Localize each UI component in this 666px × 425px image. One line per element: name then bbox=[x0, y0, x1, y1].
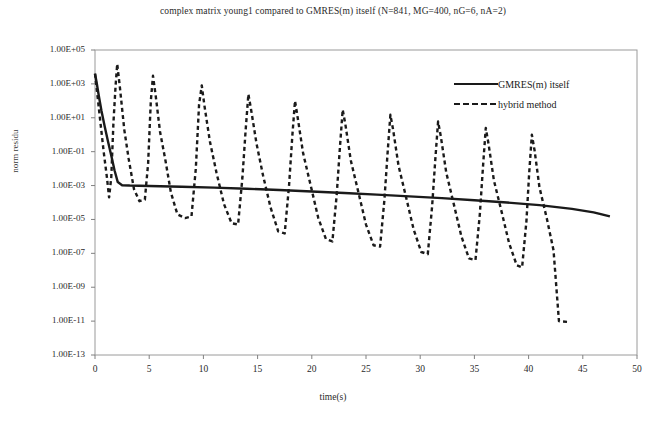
x-tick-label: 5 bbox=[134, 364, 164, 374]
x-tick-label: 0 bbox=[80, 364, 110, 374]
x-tick-label: 45 bbox=[568, 364, 598, 374]
legend-line-dashed-icon bbox=[452, 98, 498, 110]
legend-label-gmres: GMRES(m) itself bbox=[498, 79, 569, 90]
y-tick-label: 1.00E+01 bbox=[23, 112, 85, 122]
x-tick-label: 35 bbox=[459, 364, 489, 374]
x-tick-label: 30 bbox=[405, 364, 435, 374]
y-tick-label: 1.00E-03 bbox=[23, 180, 85, 190]
x-tick-label: 15 bbox=[243, 364, 273, 374]
x-tick-label: 40 bbox=[514, 364, 544, 374]
y-tick-label: 1.00E+03 bbox=[23, 78, 85, 88]
y-tick-marks bbox=[91, 50, 95, 355]
plot-area bbox=[0, 0, 666, 425]
x-tick-label: 10 bbox=[188, 364, 218, 374]
y-tick-label: 1.00E-13 bbox=[23, 349, 85, 359]
legend-line-solid-icon bbox=[452, 78, 498, 90]
legend: GMRES(m) itself hybrid method bbox=[452, 74, 622, 118]
chart-container: complex matrix young1 compared to GMRES(… bbox=[0, 0, 666, 425]
legend-item-gmres: GMRES(m) itself bbox=[452, 74, 622, 94]
y-tick-label: 1.00E-11 bbox=[23, 315, 85, 325]
y-tick-label: 1.00E-07 bbox=[23, 247, 85, 257]
x-tick-label: 20 bbox=[297, 364, 327, 374]
y-tick-label: 1.00E-09 bbox=[23, 281, 85, 291]
y-tick-label: 1.00E+05 bbox=[23, 44, 85, 54]
y-tick-label: 1.00E-05 bbox=[23, 213, 85, 223]
legend-item-hybrid: hybrid method bbox=[452, 94, 622, 114]
x-tick-label: 25 bbox=[351, 364, 381, 374]
legend-label-hybrid: hybrid method bbox=[498, 99, 557, 110]
y-tick-label: 1.00E-01 bbox=[23, 146, 85, 156]
x-tick-marks bbox=[95, 355, 637, 359]
x-tick-label: 50 bbox=[622, 364, 652, 374]
